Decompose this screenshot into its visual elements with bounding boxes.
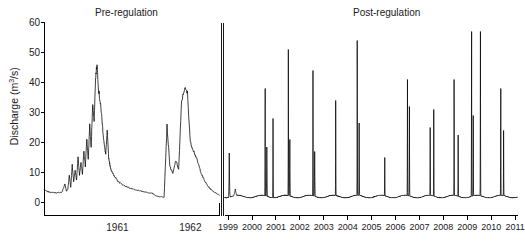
axes-layer (41, 23, 518, 220)
series-line-post-regulation (225, 32, 518, 199)
data-layer (45, 32, 518, 199)
series-line-pre-regulation (45, 65, 220, 198)
